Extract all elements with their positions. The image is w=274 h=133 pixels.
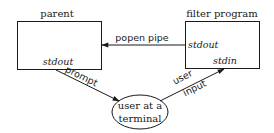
prompt-edge: prompt xyxy=(56,63,119,101)
user-input-edge: user input xyxy=(160,67,224,101)
terminal-node: user at a terminal xyxy=(112,95,168,129)
popen-pipe-edge: popen pipe xyxy=(102,32,185,45)
terminal-label-line2: terminal xyxy=(119,113,162,124)
filter-program-node: filter program stdout stdin xyxy=(186,8,260,69)
parent-node: parent stdout xyxy=(18,8,102,70)
filter-stdout-label: stdout xyxy=(188,39,219,50)
popen-pipe-label: popen pipe xyxy=(115,32,168,43)
terminal-label-line1: user at a xyxy=(118,100,163,111)
filter-stdin-label: stdin xyxy=(213,55,237,66)
filter-program-title: filter program xyxy=(186,8,258,19)
parent-title: parent xyxy=(40,8,74,19)
diagram-canvas: parent stdout filter program stdout stdi… xyxy=(0,0,274,133)
